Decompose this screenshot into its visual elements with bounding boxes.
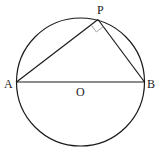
label-o: O (76, 85, 85, 99)
right-angle-mark (91, 25, 103, 32)
segment-ap (17, 20, 99, 83)
circle-diagram: P A B O (0, 0, 160, 159)
segment-pb (98, 20, 145, 83)
label-p: P (97, 3, 104, 17)
label-a: A (4, 77, 13, 91)
label-b: B (147, 77, 155, 91)
